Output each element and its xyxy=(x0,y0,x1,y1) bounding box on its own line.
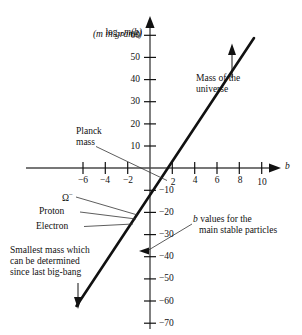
x-tick-label-10: 10 xyxy=(250,177,274,188)
x-tick-label-minus-6: −6 xyxy=(71,175,95,186)
y-tick-label-minus-60: −60 xyxy=(159,296,174,307)
y-tick-label-10: 10 xyxy=(114,141,140,152)
y-axis-arrowhead xyxy=(145,16,154,28)
plot-canvas xyxy=(0,0,302,335)
omega-symbol: Ω xyxy=(62,193,69,203)
x-tick-label-2: 2 xyxy=(161,177,185,188)
smallest-mass-arrowhead xyxy=(74,297,82,309)
annotation-omega-minus: Ω− xyxy=(62,192,73,204)
leader-electron xyxy=(84,224,133,227)
annotation-smallest-mass-line3: since last big-bang xyxy=(10,267,81,278)
y-tick-label-minus-20: −20 xyxy=(159,207,174,218)
annotation-mass-of-universe-line2: universe xyxy=(196,84,228,95)
y-tick-label-minus-50: −50 xyxy=(159,273,174,284)
y-tick-label-40: 40 xyxy=(114,74,140,85)
annotation-smallest-mass-line1: Smallest mass which xyxy=(10,245,90,256)
annotation-proton: Proton xyxy=(39,206,64,217)
leader-smallest-mass xyxy=(74,283,82,309)
y-tick-label-20: 20 xyxy=(114,119,140,130)
y-tick-label-30: 30 xyxy=(114,96,140,107)
annotation-mass-of-universe-line1: Mass of the xyxy=(196,73,240,84)
annotation-planck-mass-line2: mass xyxy=(76,137,95,148)
leader-proton xyxy=(80,212,136,219)
mass-universe-arrowhead xyxy=(228,44,236,56)
x-tick-label-8: 8 xyxy=(228,175,252,186)
y-tick-label-60: 60 xyxy=(114,30,140,41)
annotation-electron: Electron xyxy=(36,221,68,232)
x-tick-label-minus-4: −4 xyxy=(93,175,117,186)
omega-minus-superscript: − xyxy=(69,191,73,199)
x-tick-label-6: 6 xyxy=(205,175,229,186)
annotation-planck-mass-line1: Planck xyxy=(76,126,102,137)
y-tick-label-minus-30: −30 xyxy=(159,229,174,240)
y-tick-label-50: 50 xyxy=(114,52,140,63)
annotation-b-values-line2: main stable particles xyxy=(199,225,277,236)
y-tick-label-minus-70: −70 xyxy=(159,318,174,329)
x-axis-arrowhead xyxy=(269,163,281,172)
x-axis-title: b xyxy=(285,161,290,172)
b-values-arrowhead xyxy=(139,247,149,254)
annotation-smallest-mass-line2: can be determined xyxy=(10,256,80,267)
b-values-rest: values for the xyxy=(198,214,252,224)
x-tick-label-4: 4 xyxy=(183,175,207,186)
figure-container: log10m(b) (m in grams) b 60 50 40 30 20 … xyxy=(0,0,302,335)
annotation-b-values-line1: b values for the xyxy=(193,214,252,225)
y-tick-label-minus-40: −40 xyxy=(159,251,174,262)
x-axis xyxy=(26,162,281,174)
x-tick-label-minus-2: −2 xyxy=(116,175,140,186)
